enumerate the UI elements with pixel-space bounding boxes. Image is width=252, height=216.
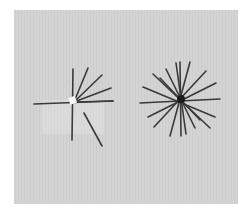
stick (72, 69, 73, 140)
stick (74, 101, 113, 102)
starburst-hub (177, 95, 185, 103)
photo-canvas (0, 0, 252, 216)
